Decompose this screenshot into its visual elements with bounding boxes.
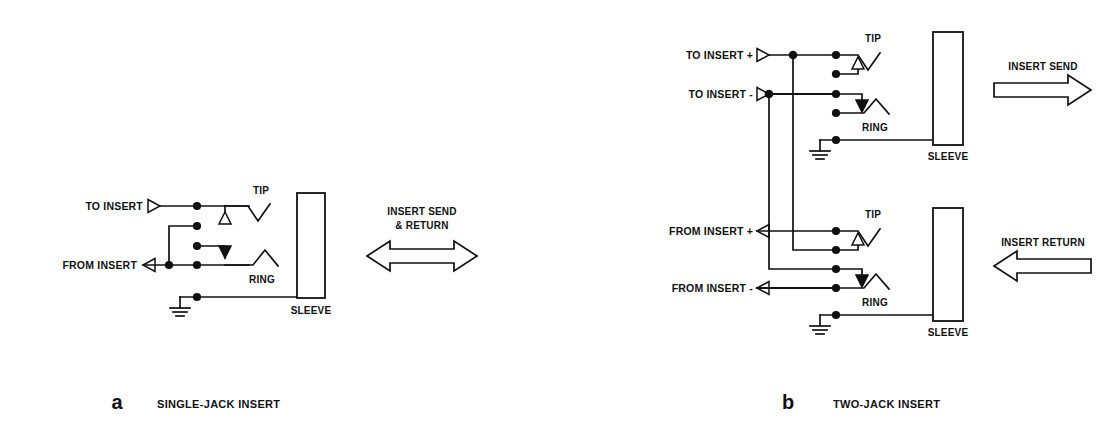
ring-switch-actuator-a [219, 246, 231, 258]
terminal-label-from-insert: FROM INSERT [62, 259, 137, 271]
ground-symbol-a [170, 308, 190, 316]
tip-contact-a [225, 204, 270, 221]
node-a-5 [193, 293, 201, 301]
terminal-label-to-insert-plus: TO INSERT + [686, 49, 753, 61]
flow-arrow-a [367, 241, 477, 271]
node-a-bus [165, 261, 173, 269]
caption-letter-b: b [782, 391, 794, 413]
terminal-label-to-insert: TO INSERT [85, 200, 143, 212]
node-b-send-1 [832, 51, 840, 59]
flow-arrow-b-send [994, 75, 1091, 105]
flow-arrow-b-return [994, 251, 1091, 281]
terminal-label-to-insert-minus: TO INSERT - [689, 88, 754, 100]
ground-symbol-b-send [810, 151, 830, 159]
node-b-return-1 [832, 227, 840, 235]
terminal-label-from-insert-minus: FROM INSERT - [672, 282, 754, 294]
ring-label-a: RING [249, 274, 275, 285]
sleeve-label-a: SLEEVE [291, 305, 332, 316]
node-b-return-4 [832, 284, 840, 292]
send-jack-group: TO INSERT + TO INSERT - [686, 32, 1091, 162]
node-b-send-2 [832, 70, 840, 78]
ring-label-b-return: RING [862, 297, 888, 308]
caption-text-b: TWO-JACK INSERT [833, 398, 940, 410]
node-b-return-2 [832, 246, 840, 254]
sleeve-label-b-return: SLEEVE [928, 327, 969, 338]
insert-jack-figure: TO INSERT FROM INSERT [0, 0, 1115, 448]
flow-arrow-label-a-line1: INSERT SEND [387, 206, 456, 217]
tip-label-b-send: TIP [865, 33, 881, 44]
tip-switch-actuator-a [219, 212, 231, 224]
ring-label-b-send: RING [862, 122, 888, 133]
diagram-a: TO INSERT FROM INSERT [62, 185, 477, 413]
node-a-2 [193, 222, 201, 230]
tip-switch-actuator-b-return [852, 233, 864, 245]
jack-body-b-send [933, 32, 963, 145]
node-b-send-4 [832, 109, 840, 117]
node-a-4 [193, 261, 201, 269]
caption-text-a: SINGLE-JACK INSERT [157, 398, 280, 410]
terminal-label-from-insert-plus: FROM INSERT + [669, 225, 753, 237]
wire-bus-plus-vertical [793, 55, 836, 250]
ground-symbol-b-return [810, 326, 830, 334]
wire-normalling-link-a [169, 226, 197, 265]
caption-letter-a: a [111, 391, 123, 413]
node-b-return-3 [832, 265, 840, 273]
sleeve-label-b-send: SLEEVE [928, 151, 969, 162]
node-a-1 [193, 202, 201, 210]
flow-arrow-label-a-line2: & RETURN [395, 220, 448, 231]
flow-arrow-label-b-send: INSERT SEND [1008, 61, 1077, 72]
tip-label-b-return: TIP [865, 209, 881, 220]
wire-bus-minus-vertical [769, 94, 836, 269]
jack-body-a [297, 193, 325, 298]
tip-switch-actuator-b-send [852, 57, 864, 69]
tip-label-a: TIP [253, 185, 269, 196]
ring-contact-a [225, 250, 278, 266]
node-a-3 [193, 242, 201, 250]
node-b-return-5 [832, 311, 840, 319]
node-b-send-5 [832, 136, 840, 144]
flow-arrow-label-b-return: INSERT RETURN [1001, 237, 1085, 248]
terminal-arrow-to-insert [148, 200, 160, 213]
terminal-arrow-to-insert-plus [757, 49, 769, 62]
node-b-send-3 [832, 90, 840, 98]
diagram-b: TO INSERT + TO INSERT - [669, 32, 1091, 413]
jack-body-b-return [933, 208, 963, 321]
